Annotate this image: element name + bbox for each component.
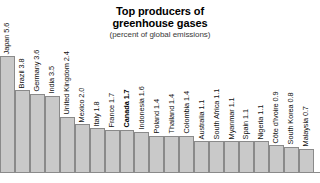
bar-label: South Africa 1.1	[213, 89, 220, 140]
bar-cell[interactable]: Canada 1.7	[120, 52, 135, 173]
chart-baseline	[0, 172, 320, 173]
bar-label: Myanmar 1.1	[228, 97, 235, 139]
bar-cell[interactable]: Myanmar 1.1	[224, 52, 239, 173]
bar[interactable]	[15, 90, 30, 173]
bar-label-highlighted: Canada 1.7	[123, 90, 130, 128]
bar-cell[interactable]: South Africa 1.1	[209, 52, 224, 173]
bar-label: United Kingdom 2.4	[64, 51, 71, 114]
bar-label: Spain 1.1	[243, 109, 250, 139]
bar-label: Poland 1.4	[153, 99, 160, 133]
bar[interactable]	[60, 117, 75, 173]
greenhouse-gas-bar-chart: Top producers of greenhouse gases (perce…	[0, 0, 320, 183]
bar[interactable]	[45, 96, 60, 173]
chart-title-line-1: Top producers of	[0, 6, 320, 18]
bar-cell[interactable]: Nigeria 1.1	[254, 52, 269, 173]
bar-series: Japan 5.6Brazil 3.8Germany 3.6India 3.5U…	[0, 52, 320, 173]
chart-title-block: Top producers of greenhouse gases (perce…	[0, 6, 320, 40]
bar-label: Italy 1.8	[93, 101, 100, 126]
bar-cell[interactable]: South Korea 0.8	[284, 52, 299, 173]
bar-cell[interactable]: Côte d'Ivoire 0.9	[269, 52, 284, 173]
bar-cell[interactable]: Germany 3.6	[30, 52, 45, 173]
bar-label: Nigeria 1.1	[258, 105, 265, 140]
chart-subtitle: (percent of global emissions)	[0, 30, 320, 40]
bar[interactable]	[179, 136, 194, 174]
bar[interactable]	[75, 124, 90, 173]
bar-cell[interactable]: Italy 1.8	[90, 52, 105, 173]
bar-label: Colombia 1.4	[183, 91, 190, 133]
bar-cell[interactable]: Indonesia 1.6	[134, 52, 149, 173]
bar-cell[interactable]: Australia 1.1	[194, 52, 209, 173]
bar[interactable]	[0, 56, 15, 173]
chart-plot-area: Japan 5.6Brazil 3.8Germany 3.6India 3.5U…	[0, 52, 320, 173]
bar-cell[interactable]: Thailand 1.4	[164, 52, 179, 173]
bar-cell[interactable]: France 1.7	[105, 52, 120, 173]
bar-label: Mexico 2.0	[78, 87, 85, 122]
bar-cell[interactable]: India 3.5	[45, 52, 60, 173]
bar[interactable]	[224, 141, 239, 173]
bar-label: Côte d'Ivoire 0.9	[273, 91, 280, 143]
bar-cell[interactable]: Brazil 3.8	[15, 52, 30, 173]
bar[interactable]	[239, 141, 254, 173]
bar[interactable]	[194, 141, 209, 173]
bar-label: France 1.7	[108, 93, 115, 127]
bar-cell[interactable]: Japan 5.6	[0, 52, 15, 173]
bar[interactable]	[164, 136, 179, 174]
bar-cell[interactable]: Mexico 2.0	[75, 52, 90, 173]
bar-label: South Korea 0.8	[288, 93, 295, 145]
bar-label: Brazil 3.8	[19, 58, 26, 88]
bar-label: Indonesia 1.6	[138, 87, 145, 130]
bar[interactable]	[269, 145, 284, 173]
bar[interactable]	[30, 94, 45, 173]
bar-cell[interactable]: Poland 1.4	[149, 52, 164, 173]
bar-cell[interactable]: Colombia 1.4	[179, 52, 194, 173]
bar[interactable]	[299, 149, 314, 173]
bar-cell[interactable]: United Kingdom 2.4	[60, 52, 75, 173]
bar-cell[interactable]: Malaysia 0.7	[299, 52, 314, 173]
bar[interactable]	[120, 130, 135, 173]
bar[interactable]	[284, 147, 299, 173]
bar[interactable]	[209, 141, 224, 173]
bar-label: India 3.5	[49, 66, 56, 93]
bar[interactable]	[105, 130, 120, 173]
bar-label: Malaysia 0.7	[303, 106, 310, 146]
chart-title-line-2: greenhouse gases	[0, 18, 320, 30]
bar[interactable]	[90, 128, 105, 173]
bar[interactable]	[254, 141, 269, 173]
bar-label: Germany 3.6	[34, 50, 41, 92]
bar-label: Australia 1.1	[198, 99, 205, 139]
bar[interactable]	[134, 132, 149, 173]
bar-label: Thailand 1.4	[168, 94, 175, 133]
bar-label: Japan 5.6	[4, 22, 11, 54]
bar-cell[interactable]: Spain 1.1	[239, 52, 254, 173]
bar[interactable]	[149, 136, 164, 174]
